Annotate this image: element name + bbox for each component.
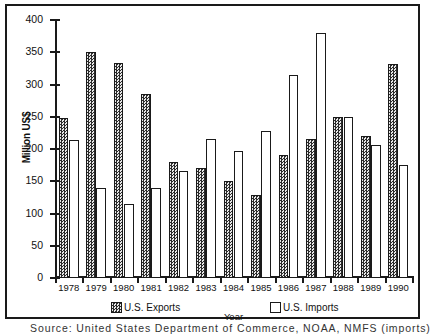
bar-imports-1979 [96,188,106,278]
bar-exports-1983 [196,168,206,278]
y-tick-label: 50 [31,240,43,251]
x-tick-label-1982: 1982 [168,282,189,293]
bar-exports-1981 [141,94,151,278]
x-tick-label-1981: 1981 [141,282,162,293]
y-tick: 300 [50,84,60,86]
x-tick-label-1989: 1989 [360,282,381,293]
bar-imports-1980 [124,204,134,278]
y-tick-label: 150 [25,175,43,186]
x-tick [165,276,167,283]
source-caption: Source: United States Department of Comm… [30,322,430,334]
legend-label-imports: U.S. Imports [283,302,339,313]
legend-swatch-imports [270,302,281,313]
plot-area: 050100150200250300350400 197819791980198… [55,20,412,278]
y-tick-label: 250 [25,111,43,122]
x-tick [110,276,112,283]
x-tick-label-1987: 1987 [305,282,326,293]
x-tick [385,276,387,283]
x-tick [302,276,304,283]
chart-figure: Million US$ 050100150200250300350400 197… [0,0,430,336]
bar-imports-1986 [289,75,299,278]
bar-exports-1982 [169,162,179,278]
x-tick-label-1986: 1986 [278,282,299,293]
bar-imports-1988 [344,117,354,278]
bar-exports-1985 [251,195,261,278]
bar-imports-1985 [261,131,271,278]
y-tick-label: 350 [25,46,43,57]
x-tick-label-1988: 1988 [333,282,354,293]
y-tick-label: 0 [37,272,43,283]
bar-exports-1979 [86,52,96,278]
bar-imports-1989 [371,145,381,279]
bar-imports-1981 [151,188,161,278]
x-tick [192,276,194,283]
bar-exports-1988 [333,117,343,278]
y-tick: 350 [50,51,60,53]
x-tick-label-1980: 1980 [113,282,134,293]
x-tick [412,276,414,283]
bar-imports-1982 [179,171,189,278]
bar-exports-1986 [279,155,289,278]
legend-swatch-exports [111,302,122,313]
bar-exports-1990 [388,64,398,278]
x-tick-label-1979: 1979 [86,282,107,293]
x-tick [137,276,139,283]
bar-exports-1980 [114,63,124,278]
x-tick [220,276,222,283]
y-tick-label: 200 [25,143,43,154]
x-tick-label-1990: 1990 [388,282,409,293]
bar-imports-1978 [69,140,79,278]
x-tick [55,276,57,283]
x-tick [330,276,332,283]
x-tick-label-1984: 1984 [223,282,244,293]
bar-exports-1987 [306,139,316,278]
bar-imports-1984 [234,151,244,278]
x-tick-label-1978: 1978 [58,282,79,293]
y-tick-label: 300 [25,78,43,89]
chart-frame: Million US$ 050100150200250300350400 197… [5,4,420,319]
bar-exports-1989 [361,136,371,278]
x-tick [357,276,359,283]
bar-imports-1987 [316,33,326,278]
bar-imports-1983 [206,139,216,278]
legend-label-exports: U.S. Exports [124,302,180,313]
x-tick [275,276,277,283]
x-tick-label-1985: 1985 [250,282,271,293]
y-tick-label: 100 [25,207,43,218]
bar-exports-1984 [224,181,234,278]
x-tick-label-1983: 1983 [195,282,216,293]
bar-exports-1978 [59,118,69,278]
y-tick-label: 400 [25,14,43,25]
chart-legend: U.S. Exports U.S. Imports [55,302,412,320]
bar-imports-1990 [399,165,409,278]
x-tick [82,276,84,283]
x-tick [247,276,249,283]
y-tick: 400 [50,19,60,21]
legend-item-imports: U.S. Imports [270,302,339,313]
legend-item-exports: U.S. Exports [111,302,180,313]
